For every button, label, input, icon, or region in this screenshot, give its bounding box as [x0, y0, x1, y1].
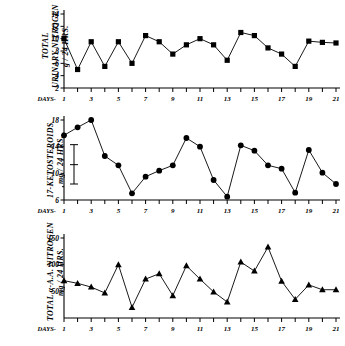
data-point-marker: [143, 33, 148, 38]
data-point-marker: [306, 147, 312, 153]
data-point-marker: [238, 30, 243, 35]
x-tick-label: 5: [117, 207, 121, 215]
data-point-marker: [61, 277, 68, 283]
x-tick-label: 13: [224, 95, 232, 103]
data-point-marker: [170, 51, 175, 56]
data-point-marker: [279, 166, 285, 172]
data-point-marker: [170, 162, 176, 168]
y-tick-label: 18: [52, 116, 60, 125]
plot-area: 610141813579111315171921DAYS-: [40, 116, 340, 214]
figure-root: TOTAL URINARY NITROGEN g / 24 HRS. 24681…: [0, 0, 345, 346]
data-point-marker: [89, 39, 94, 44]
data-point-marker: [116, 162, 122, 168]
x-tick-label: 19: [305, 95, 313, 103]
data-point-marker: [183, 262, 190, 268]
data-point-marker: [170, 292, 177, 298]
y-tick-label: 8: [55, 47, 59, 56]
data-point-marker: [115, 261, 122, 267]
data-point-marker: [278, 278, 285, 284]
data-point-marker: [143, 174, 149, 180]
data-point-marker: [157, 39, 162, 44]
y-tick-label: 14: [52, 142, 60, 151]
x-axis-days-label: DAYS-: [37, 325, 56, 332]
data-point-marker: [156, 168, 162, 174]
data-point-marker: [320, 40, 325, 45]
plot-svg: 246810121413579111315171921DAYS-: [40, 8, 340, 106]
chart-panel-total-alpha-aa-nitrogen: TOTAL α-A.A. NITROGEN mg / 24 HRS. 50100…: [0, 222, 345, 346]
data-point-marker: [306, 281, 313, 287]
x-tick-label: 17: [278, 207, 286, 215]
data-point-marker: [265, 162, 271, 168]
x-tick-label: 3: [88, 325, 93, 333]
data-point-marker: [116, 39, 121, 44]
x-tick-label: 21: [332, 325, 340, 333]
data-point-marker: [306, 39, 311, 44]
x-tick-label: 5: [117, 95, 121, 103]
data-point-marker: [184, 135, 190, 141]
x-tick-label: 21: [332, 207, 340, 215]
data-point-marker: [184, 42, 189, 47]
plot-svg: 5010015013579111315171921DAYS-: [40, 232, 340, 332]
x-tick-label: 3: [88, 95, 93, 103]
x-tick-label: 3: [88, 207, 93, 215]
data-point-marker: [333, 40, 338, 45]
x-tick-label: 15: [251, 95, 259, 103]
y-tick-label: 12: [52, 22, 60, 31]
x-tick-label: 15: [251, 207, 259, 215]
chart-panel-17-ketosteroids: 17-KETOSTEROIDS mg / 24 HRS. 61014181357…: [0, 112, 345, 222]
plot-area: 5010015013579111315171921DAYS-: [40, 232, 340, 332]
data-point-marker: [238, 259, 245, 265]
x-tick-label: 11: [197, 325, 204, 333]
x-tick-label: 1: [62, 207, 66, 215]
x-tick-label: 9: [171, 207, 175, 215]
plot-area: 246810121413579111315171921DAYS-: [40, 8, 340, 106]
x-axis-days-label: DAYS-: [37, 207, 56, 214]
y-tick-label: 6: [55, 196, 59, 205]
data-point-marker: [265, 45, 270, 50]
plot-svg: 610141813579111315171921DAYS-: [40, 116, 340, 214]
data-point-marker: [61, 132, 67, 138]
data-point-marker: [293, 64, 298, 69]
y-tick-label: 100: [48, 260, 60, 269]
x-tick-label: 17: [278, 95, 286, 103]
x-axis-days-label: DAYS-: [37, 95, 56, 102]
x-tick-label: 13: [224, 325, 232, 333]
data-point-marker: [102, 289, 109, 295]
data-point-marker: [251, 268, 258, 274]
data-point-marker: [129, 61, 134, 66]
x-tick-label: 15: [251, 325, 259, 333]
data-point-marker: [211, 177, 217, 183]
data-point-marker: [88, 117, 94, 123]
x-tick-label: 13: [224, 207, 232, 215]
data-point-marker: [102, 153, 108, 159]
x-tick-label: 1: [62, 95, 66, 103]
data-point-marker: [197, 144, 203, 150]
reference-range-error-bar: [70, 145, 78, 184]
data-point-marker: [224, 299, 231, 305]
x-tick-label: 11: [197, 207, 204, 215]
data-point-marker: [279, 51, 284, 56]
x-tick-label: 19: [305, 207, 313, 215]
data-point-marker: [252, 148, 258, 154]
y-tick-label: 14: [52, 10, 60, 19]
x-tick-label: 21: [332, 95, 340, 103]
x-tick-label: 7: [144, 325, 148, 333]
y-tick-label: 6: [55, 59, 59, 68]
x-tick-label: 11: [197, 95, 204, 103]
data-point-marker: [252, 33, 257, 38]
data-point-marker: [102, 64, 107, 69]
data-point-marker: [75, 124, 81, 130]
chart-panel-total-urinary-nitrogen: TOTAL URINARY NITROGEN g / 24 HRS. 24681…: [0, 0, 345, 112]
data-point-marker: [129, 190, 135, 196]
x-tick-label: 5: [117, 325, 121, 333]
x-tick-label: 7: [144, 95, 148, 103]
y-tick-label: 2: [54, 84, 59, 93]
data-point-marker: [61, 36, 66, 41]
y-tick-label: 50: [52, 287, 60, 296]
data-point-marker: [129, 304, 136, 310]
data-point-marker: [225, 58, 230, 63]
data-point-marker: [224, 194, 230, 200]
x-tick-label: 9: [171, 325, 175, 333]
data-point-marker: [265, 244, 272, 250]
x-tick-label: 7: [144, 207, 148, 215]
